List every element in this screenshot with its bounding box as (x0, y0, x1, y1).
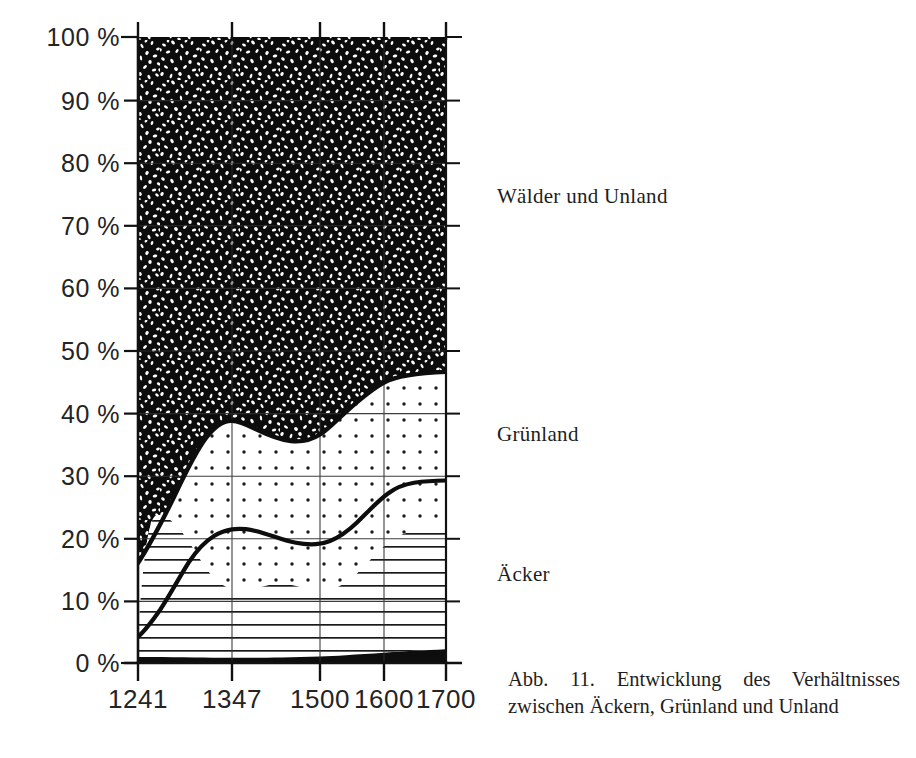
series-label-waelder-und-unland: Wälder und Unland (497, 184, 668, 209)
x-axis-tick-labels: 1241 1347 1500 1600 1700 (0, 684, 480, 724)
x-tick-label-1241: 1241 (108, 684, 168, 715)
y-tick-label-90: 90 % (28, 86, 120, 115)
y-tick-label-100: 100 % (28, 23, 120, 52)
series-label-gruenland: Grünland (497, 422, 579, 447)
x-tick-label-1700: 1700 (416, 684, 476, 715)
series-label-aecker: Äcker (497, 562, 550, 587)
y-axis-ticks-right (445, 37, 462, 601)
y-tick-label-40: 40 % (28, 399, 120, 428)
y-tick-label-0: 0 % (28, 649, 120, 678)
caption-line-2: zwischen Äckern, Grünland und Unland (508, 693, 900, 720)
figure-caption: Abb. 11. Entwicklung des Verhältnisses z… (508, 666, 900, 720)
stacked-area-chart: 100 % 90 % 80 % 70 % 60 % 50 % 40 % 30 %… (0, 0, 480, 758)
y-tick-label-70: 70 % (28, 211, 120, 240)
x-tick-label-1500: 1500 (290, 684, 350, 715)
y-tick-label-10: 10 % (28, 587, 120, 616)
x-tick-label-1600: 1600 (354, 684, 414, 715)
y-tick-label-50: 50 % (28, 337, 120, 366)
y-axis-tick-labels: 100 % 90 % 80 % 70 % 60 % 50 % 40 % 30 %… (28, 0, 120, 758)
x-tick-label-1347: 1347 (202, 684, 262, 715)
plot-area (138, 37, 446, 663)
y-tick-label-80: 80 % (28, 149, 120, 178)
y-tick-label-30: 30 % (28, 462, 120, 491)
y-tick-label-60: 60 % (28, 274, 120, 303)
figure-abb-11: 100 % 90 % 80 % 70 % 60 % 50 % 40 % 30 %… (0, 0, 916, 758)
y-tick-label-20: 20 % (28, 524, 120, 553)
y-axis-ticks (121, 37, 139, 663)
caption-line-1: Abb. 11. Entwicklung des Verhältnisses (508, 666, 900, 693)
